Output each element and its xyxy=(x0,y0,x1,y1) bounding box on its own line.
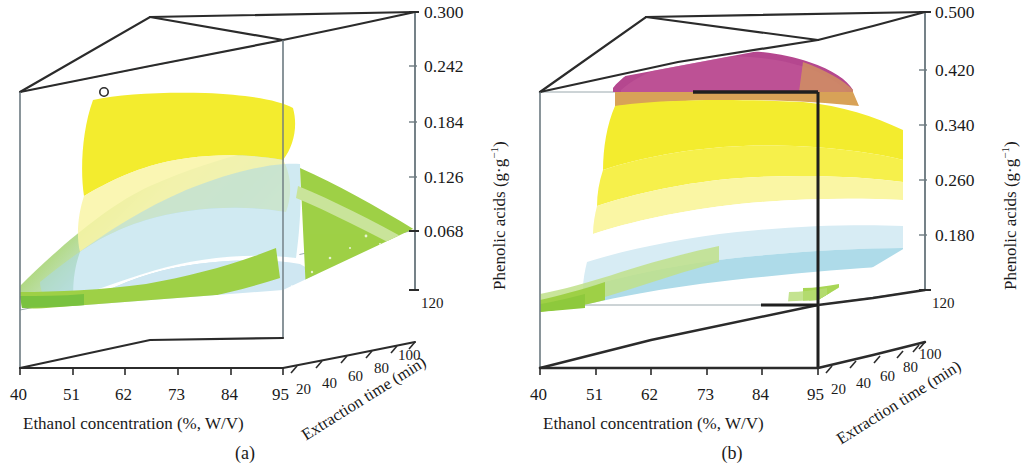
panel-b-xtick-5: 95 xyxy=(807,386,824,403)
panel-b-ztick-0: 0.500 xyxy=(935,4,974,22)
panel-b-ztick-2: 0.340 xyxy=(935,117,974,135)
panel-a-surface xyxy=(20,90,420,324)
panel-b-xtick-0: 40 xyxy=(530,386,547,403)
panel-b-xtick-2: 62 xyxy=(641,386,658,403)
panel-a-ytick-1: 40 xyxy=(322,376,337,391)
panel-a-xtick-1: 51 xyxy=(63,386,80,403)
panel-b-ytick-0: 20 xyxy=(831,382,846,397)
panel-a-ytick-0: 20 xyxy=(296,382,311,397)
panel-b-xtick-4: 84 xyxy=(752,386,769,403)
panel-a-xtick-5: 95 xyxy=(272,386,289,403)
panel-a-xtick-3: 73 xyxy=(168,386,185,403)
panel-a-ytick-2: 60 xyxy=(348,369,363,384)
panel-b-ztick-3: 0.260 xyxy=(935,172,974,190)
panel-b-ztick-4: 0.180 xyxy=(935,227,974,245)
panel-b-z-axis-title-text: Phenolic acids (g·g xyxy=(1001,159,1020,290)
panel-b-z-axis xyxy=(919,12,931,290)
panel-b-z-axis-title-exponent: −1 xyxy=(999,147,1011,159)
panel-a-marker-point xyxy=(100,88,108,96)
panel-a-bottom-edges xyxy=(20,338,415,368)
panel-b-xtick-1: 51 xyxy=(586,386,603,403)
panel-b-ytick-3: 80 xyxy=(903,360,918,375)
panel-b-surface xyxy=(540,50,903,312)
panel-a-ztick-0: 0.300 xyxy=(424,4,463,22)
panel-a-xtick-0: 40 xyxy=(10,386,27,403)
panel-b-ytick-5: 120 xyxy=(932,296,955,311)
panel-a: 0.300 0.242 0.184 0.126 0.068 Phenolic a… xyxy=(0,0,503,468)
panel-a-ytick-5: 120 xyxy=(421,296,444,311)
panel-b-z-axis-title-tail: ) xyxy=(1001,141,1020,147)
panel-b-xtick-3: 73 xyxy=(697,386,714,403)
panel-a-xtick-2: 62 xyxy=(115,386,132,403)
panel-a-ztick-2: 0.184 xyxy=(424,114,463,132)
panel-b-z-axis-title: Phenolic acids (g·g−1) xyxy=(999,141,1021,290)
panel-a-xtick-4: 84 xyxy=(221,386,238,403)
panel-a-z-axis-title-exponent: −1 xyxy=(488,147,500,159)
panel-b: 0.500 0.420 0.340 0.260 0.180 Phenolic a… xyxy=(503,0,1006,468)
panel-a-x-axis-title: Ethanol concentration (%, W/V) xyxy=(23,414,244,434)
panel-a-ztick-3: 0.126 xyxy=(424,169,463,187)
panel-b-x-axis-title: Ethanol concentration (%, W/V) xyxy=(543,414,764,434)
panel-a-caption: (a) xyxy=(205,443,285,464)
panel-a-ztick-1: 0.242 xyxy=(424,58,463,76)
panel-a-ztick-4: 0.068 xyxy=(424,223,463,241)
panel-b-ytick-2: 60 xyxy=(880,369,895,384)
panel-b-ytick-1: 40 xyxy=(856,376,871,391)
panel-b-ztick-1: 0.420 xyxy=(935,62,974,80)
panel-a-box-frame xyxy=(20,12,415,92)
panel-b-ytick-4: 100 xyxy=(919,347,942,362)
panel-b-caption: (b) xyxy=(692,443,772,464)
